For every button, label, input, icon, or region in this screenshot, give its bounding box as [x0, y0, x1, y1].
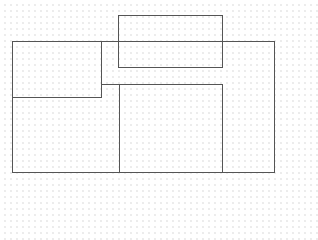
connector-line — [101, 84, 119, 85]
bottom-center-box[interactable] — [119, 84, 223, 173]
top-left-box[interactable] — [12, 41, 102, 98]
frame-edge-mask — [119, 41, 222, 42]
